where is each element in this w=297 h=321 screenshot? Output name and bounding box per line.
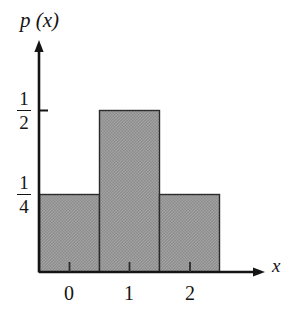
fraction-bar xyxy=(17,194,31,195)
fraction-bar xyxy=(17,110,31,111)
x-tick-label-1: 1 xyxy=(117,283,141,303)
fraction-numerator: 1 xyxy=(12,89,36,109)
x-axis-label: x xyxy=(272,256,280,275)
y-axis-label: p (x) xyxy=(20,10,59,31)
y-tick-label-one-half: 1 2 xyxy=(12,89,36,133)
probability-histogram-figure: p (x) x 1 2 1 4 0 1 2 xyxy=(0,0,297,321)
x-tick-label-2: 2 xyxy=(178,283,202,303)
histogram-svg xyxy=(0,0,297,321)
bars-group xyxy=(40,111,220,273)
fraction-denominator: 4 xyxy=(12,196,36,216)
fraction-numerator: 1 xyxy=(12,173,36,193)
bar-x1 xyxy=(100,111,160,273)
x-tick-label-0: 0 xyxy=(57,283,81,303)
fraction-denominator: 2 xyxy=(12,112,36,132)
bar-x0 xyxy=(40,195,100,273)
y-tick-label-one-quarter: 1 4 xyxy=(12,173,36,217)
bar-x2 xyxy=(160,195,220,273)
